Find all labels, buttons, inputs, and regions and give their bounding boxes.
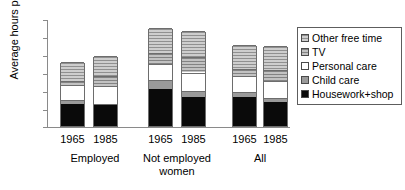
y-tick-0 xyxy=(43,127,48,128)
legend-label-other-free-time: Other free time xyxy=(312,33,382,44)
segment-other-free-time xyxy=(149,28,172,53)
group-label-not-employed-line1: Not employed xyxy=(137,152,217,165)
group-label-not-employed-line2: women xyxy=(137,165,217,178)
plot-area: 120 100 80 60 40 20 0 1965 1985 1965 198… xyxy=(0,0,300,190)
segment-housework-shop xyxy=(94,105,117,126)
y-tick-80 xyxy=(43,56,48,57)
segment-housework-shop xyxy=(233,97,256,126)
segment-tv xyxy=(61,81,84,85)
segment-tv xyxy=(182,57,205,72)
y-tick-100 xyxy=(43,38,48,39)
segment-tv xyxy=(233,69,256,76)
legend: Other free time TV Personal care Child c… xyxy=(297,27,402,105)
legend-item-housework-shop: Housework+shop xyxy=(301,87,398,101)
segment-housework-shop xyxy=(182,97,205,126)
y-tick-120 xyxy=(43,20,48,21)
stacked-bar-chart: Average hours per week 120 100 80 60 40 … xyxy=(0,0,405,190)
segment-child-care xyxy=(182,91,205,97)
segment-child-care xyxy=(94,104,117,106)
segment-child-care xyxy=(233,92,256,96)
legend-item-tv: TV xyxy=(301,45,398,59)
segment-personal-care xyxy=(149,64,172,80)
y-tick-20 xyxy=(43,110,48,111)
segment-personal-care xyxy=(264,81,287,98)
segment-child-care xyxy=(264,98,287,102)
segment-personal-care xyxy=(94,86,117,104)
legend-item-other-free-time: Other free time xyxy=(301,31,398,45)
bar-all-1965 xyxy=(232,46,257,127)
segment-other-free-time xyxy=(233,45,256,69)
legend-item-personal-care: Personal care xyxy=(301,59,398,73)
x-axis-line xyxy=(47,127,290,128)
bar-all-1985 xyxy=(263,47,288,127)
segment-tv xyxy=(264,70,287,82)
segment-other-free-time xyxy=(182,31,205,57)
bar-employed-1985 xyxy=(93,57,118,127)
group-label-all: All xyxy=(220,152,300,165)
segment-personal-care xyxy=(233,76,256,92)
legend-swatch-personal-care xyxy=(301,62,309,70)
segment-other-free-time xyxy=(61,62,84,81)
bar-not-employed-1965 xyxy=(148,29,173,127)
y-tick-40 xyxy=(43,92,48,93)
segment-child-care xyxy=(61,100,84,104)
segment-other-free-time xyxy=(264,46,287,70)
legend-label-child-care: Child care xyxy=(312,75,359,86)
segment-housework-shop xyxy=(61,104,84,126)
bar-not-employed-1985 xyxy=(181,32,206,127)
y-tick-60 xyxy=(43,74,48,75)
legend-label-housework-shop: Housework+shop xyxy=(312,89,393,100)
legend-swatch-other-free-time xyxy=(301,34,309,42)
segment-tv xyxy=(149,53,172,64)
segment-personal-care xyxy=(182,73,205,92)
legend-swatch-child-care xyxy=(301,76,309,84)
legend-swatch-housework-shop xyxy=(301,90,309,98)
x-label-not-employed-1985: 1985 xyxy=(169,133,218,145)
segment-housework-shop xyxy=(264,102,287,126)
group-label-employed: Employed xyxy=(55,152,135,165)
segment-tv xyxy=(94,76,117,86)
segment-housework-shop xyxy=(149,89,172,126)
bar-employed-1965 xyxy=(60,63,85,127)
legend-label-tv: TV xyxy=(312,47,325,58)
x-label-all-1985: 1985 xyxy=(251,133,300,145)
legend-swatch-tv xyxy=(301,48,309,56)
segment-personal-care xyxy=(61,85,84,100)
legend-item-child-care: Child care xyxy=(301,73,398,87)
segment-child-care xyxy=(149,80,172,89)
x-label-employed-1985: 1985 xyxy=(81,133,130,145)
legend-label-personal-care: Personal care xyxy=(312,61,377,72)
segment-other-free-time xyxy=(94,56,117,77)
